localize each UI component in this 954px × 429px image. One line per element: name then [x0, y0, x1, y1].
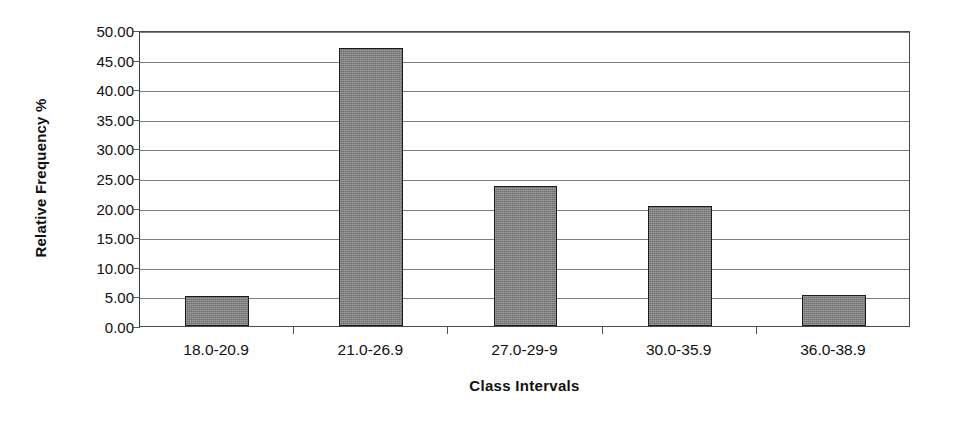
bar: [185, 296, 249, 326]
bar: [339, 48, 403, 326]
x-axis-tick-label: 21.0-26.9: [293, 340, 447, 360]
bar: [648, 206, 712, 326]
x-axis-tick-label: 27.0-29-9: [447, 340, 601, 360]
x-tick-mark: [756, 327, 757, 334]
y-axis-tick-label: 35.00: [52, 113, 134, 128]
plot-area: [139, 31, 910, 327]
relative-frequency-histogram: Relative Frequency % 50.0045.0040.0035.0…: [0, 0, 954, 429]
x-axis-tick-labels: 18.0-20.921.0-26.927.0-29-930.0-35.936.0…: [139, 340, 910, 364]
bar: [802, 295, 866, 326]
y-tick-mark: [133, 238, 140, 239]
y-axis-tick-label: 0.00: [52, 320, 134, 335]
y-axis-tick-label: 30.00: [52, 142, 134, 157]
y-tick-mark: [133, 31, 140, 32]
x-axis-tick-marks: [139, 327, 910, 335]
x-tick-mark: [447, 327, 448, 334]
y-axis-tick-label: 40.00: [52, 83, 134, 98]
bar: [494, 186, 558, 326]
x-tick-mark: [293, 327, 294, 334]
y-tick-mark: [133, 120, 140, 121]
y-axis-tick-marks: [139, 31, 140, 327]
x-axis-title: Class Intervals: [139, 377, 910, 394]
y-tick-mark: [133, 61, 140, 62]
y-axis-tick-labels: 50.0045.0040.0035.0030.0025.0020.0015.00…: [52, 31, 134, 327]
x-tick-mark: [602, 327, 603, 334]
y-axis-title: Relative Frequency %: [32, 98, 49, 257]
y-tick-mark: [133, 179, 140, 180]
y-axis-tick-label: 15.00: [52, 231, 134, 246]
y-axis-tick-label: 45.00: [52, 54, 134, 69]
y-tick-mark: [133, 149, 140, 150]
y-tick-mark: [133, 297, 140, 298]
bar-series: [140, 32, 909, 326]
y-axis-tick-label: 25.00: [52, 172, 134, 187]
y-axis-tick-label: 20.00: [52, 202, 134, 217]
y-axis-tick-label: 5.00: [52, 290, 134, 305]
x-axis-tick-label: 30.0-35.9: [602, 340, 756, 360]
x-axis-tick-label: 18.0-20.9: [139, 340, 293, 360]
y-axis-tick-label: 50.00: [52, 24, 134, 39]
y-tick-mark: [133, 90, 140, 91]
y-tick-mark: [133, 209, 140, 210]
y-tick-mark: [133, 268, 140, 269]
x-axis-tick-label: 36.0-38.9: [756, 340, 910, 360]
y-axis-tick-label: 10.00: [52, 261, 134, 276]
